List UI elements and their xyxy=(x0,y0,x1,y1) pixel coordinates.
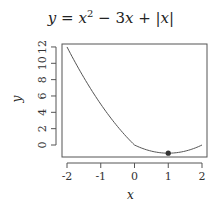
x-axis: -2-1012 xyxy=(62,163,206,183)
x-tick-label: 0 xyxy=(131,170,138,183)
minimum-point xyxy=(166,151,171,156)
function-curve xyxy=(67,47,202,153)
plot-frame xyxy=(62,44,207,157)
x-tick-label: 2 xyxy=(199,170,206,183)
y-axis-label: y xyxy=(10,96,24,103)
y-tick-label: 6 xyxy=(36,92,49,99)
y-tick-label: 0 xyxy=(36,142,49,149)
y-axis: 024681012 xyxy=(36,40,56,149)
y-tick-label: 10 xyxy=(36,56,49,70)
x-tick-label: -2 xyxy=(62,170,73,183)
y-tick-label: 4 xyxy=(36,109,49,116)
y-tick-label: 12 xyxy=(36,40,49,54)
y-tick-label: 8 xyxy=(36,76,49,83)
plot-area: -2-1012 024681012 xyxy=(0,0,222,212)
x-tick-label: -1 xyxy=(95,170,106,183)
x-tick-label: 1 xyxy=(165,170,172,183)
x-axis-label: x xyxy=(127,188,134,202)
y-tick-label: 2 xyxy=(36,125,49,132)
